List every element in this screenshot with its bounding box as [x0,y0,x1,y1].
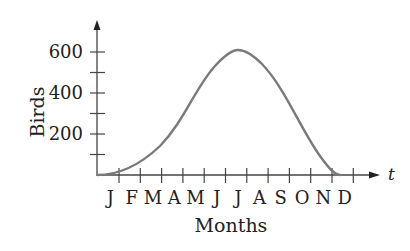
x-tick-label: A [167,187,182,208]
y-axis: 200400600 [49,20,105,176]
x-tick-label: A [252,187,267,208]
x-tick-label: D [337,187,351,208]
x-tick-label: J [233,187,242,208]
x-tick-label: J [211,187,220,208]
x-axis-arrow-icon [369,172,380,179]
y-tick-label: 600 [49,41,83,62]
chart: 200400600 t JFMAMJJASOND Birds Months [0,0,410,251]
x-tick-label: M [144,187,162,208]
x-tick-label: J [105,187,114,208]
y-tick-label: 400 [49,82,83,103]
x-tick-label: S [275,187,287,208]
y-axis-arrow-icon [94,20,101,30]
x-tick-label: M [186,187,204,208]
x-tick-label: N [315,187,331,208]
x-axis: t JFMAMJJASOND [97,164,395,208]
x-tick-label: F [125,187,138,208]
x-axis-title: Months [195,214,268,236]
y-tick-label: 200 [49,123,83,144]
y-axis-title: Birds [26,86,48,137]
x-axis-variable: t [388,164,395,184]
birds-curve [97,50,341,175]
x-tick-label: O [295,187,310,208]
